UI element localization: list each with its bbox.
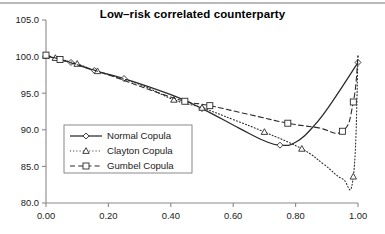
x-tick-label: 0.20 <box>99 210 117 221</box>
plot-area: 80.085.090.095.0100.0105.0 0.000.200.400… <box>0 0 385 234</box>
data-point-marker <box>350 173 356 179</box>
legend-label: Gumbel Copula <box>107 160 174 171</box>
data-point-marker <box>339 128 345 134</box>
legend-marker-square <box>83 163 89 169</box>
data-point-marker <box>261 129 267 135</box>
x-tick-label: 0.40 <box>162 210 180 221</box>
legend-label: Normal Copula <box>107 130 172 141</box>
series-line <box>46 55 358 133</box>
legend-label: Clayton Copula <box>107 145 173 156</box>
x-tick-label: 0.80 <box>286 210 304 221</box>
y-tick-label: 100.0 <box>16 51 39 62</box>
data-point-marker <box>350 99 356 105</box>
chart-figure: Low–risk correlated counterparty 80.085.… <box>0 0 385 234</box>
y-tick-label: 95.0 <box>21 88 39 99</box>
y-tick-label: 85.0 <box>21 161 39 172</box>
y-axis: 80.085.090.095.0100.0105.0 <box>16 14 46 208</box>
data-point-marker <box>182 98 188 104</box>
data-point-marker <box>285 120 291 126</box>
x-tick-label: 1.00 <box>349 210 367 221</box>
y-tick-label: 90.0 <box>21 124 39 135</box>
x-tick-label: 0.60 <box>224 210 242 221</box>
data-point-marker <box>43 52 49 58</box>
series-gumbel-copula <box>43 52 358 134</box>
data-point-marker <box>299 146 305 152</box>
x-axis: 0.000.200.400.600.801.00 <box>37 203 367 221</box>
y-tick-label: 105.0 <box>16 14 39 25</box>
data-point-marker <box>57 57 63 63</box>
data-point-marker <box>207 103 213 109</box>
x-tick-label: 0.00 <box>37 210 55 221</box>
legend[interactable]: Normal CopulaClayton CopulaGumbel Copula <box>64 125 192 173</box>
data-point-marker <box>277 142 283 148</box>
y-tick-label: 80.0 <box>21 197 39 208</box>
